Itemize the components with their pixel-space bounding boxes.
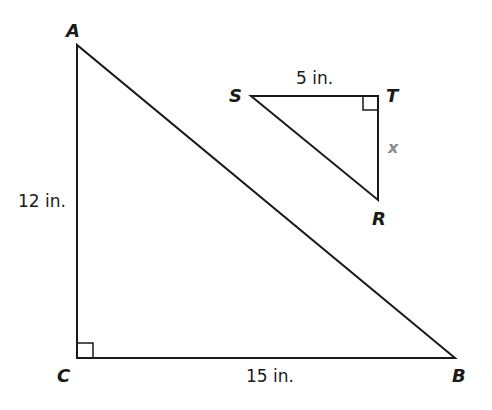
vertex-label-s: S <box>229 85 242 106</box>
side-label-ac: 12 in. <box>18 191 66 211</box>
diagram-canvas <box>0 0 492 410</box>
side-label-st: 5 in. <box>296 68 333 88</box>
triangle-str <box>251 96 378 200</box>
side-label-cb: 15 in. <box>246 366 294 386</box>
vertex-label-r: R <box>372 208 386 229</box>
vertex-label-c: C <box>57 365 70 386</box>
right-angle-mark-t <box>363 96 378 110</box>
side-label-tr-variable: x <box>388 138 398 157</box>
right-angle-mark-c <box>77 343 93 358</box>
triangle-abc <box>77 45 455 358</box>
vertex-label-a: A <box>66 20 80 41</box>
vertex-label-t: T <box>386 85 398 106</box>
vertex-label-b: B <box>452 365 466 386</box>
